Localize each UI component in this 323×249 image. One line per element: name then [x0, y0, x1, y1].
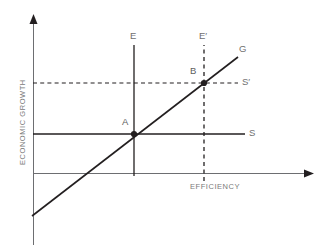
label-point-a: A: [122, 117, 128, 127]
label-point-b: B: [190, 66, 196, 76]
chart-canvas: [0, 0, 323, 249]
label-x-axis-efficiency: EFFICIENCY: [190, 183, 240, 191]
label-line-s: S: [249, 128, 255, 138]
label-y-axis-economic-growth: ECONOMIC GROWTH: [19, 79, 27, 165]
label-line-s-prime: S′: [242, 77, 250, 87]
x-axis-arrow-icon: [304, 170, 314, 178]
point-a-marker: [131, 131, 137, 137]
point-b-marker: [201, 80, 207, 86]
label-curve-g: G: [239, 44, 246, 54]
label-line-e: E: [130, 31, 136, 41]
label-line-e-prime: E′: [199, 31, 207, 41]
y-axis: [30, 14, 38, 245]
y-axis-arrow-icon: [30, 14, 38, 24]
x-axis: [33, 170, 314, 178]
economic-growth-efficiency-diagram: E E′ G B S′ A S EFFICIENCY ECONOMIC GROW…: [0, 0, 323, 249]
